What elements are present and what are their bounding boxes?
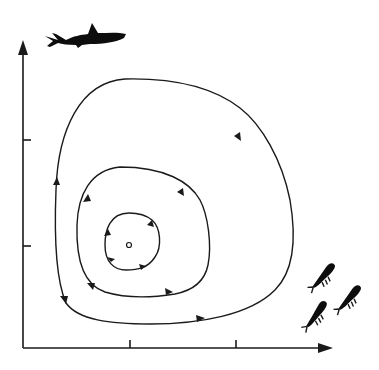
equilibrium-point bbox=[127, 243, 132, 248]
orbit-arrow-icon bbox=[104, 229, 111, 236]
predator-fish-icon bbox=[45, 23, 126, 48]
outer-orbit bbox=[53, 79, 293, 324]
orbit-arrow-icon bbox=[234, 132, 241, 141]
inner-orbit bbox=[104, 213, 160, 270]
orbit-arrow-icon bbox=[53, 177, 60, 185]
orbit-arrow-icon bbox=[83, 194, 91, 202]
y-axis-arrow-icon bbox=[18, 40, 28, 55]
orbit-arrow-icon bbox=[177, 188, 184, 196]
x-axis bbox=[23, 340, 333, 353]
x-axis-arrow-icon bbox=[318, 343, 333, 353]
phase-portrait-diagram: predator population prey population bbox=[0, 0, 379, 370]
orbit-arrow-icon bbox=[87, 283, 95, 290]
y-axis bbox=[18, 40, 31, 348]
prey-shrimp-icon bbox=[297, 262, 368, 335]
orbit-arrow-icon bbox=[60, 296, 68, 304]
middle-orbit bbox=[77, 167, 210, 297]
